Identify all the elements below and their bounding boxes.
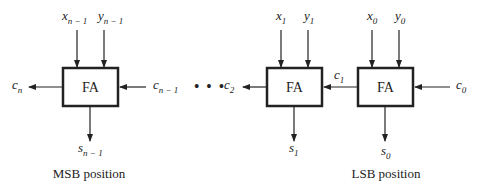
label-x-msb: xn − 1: [61, 8, 87, 26]
fa-label-0: FA: [377, 80, 395, 95]
label-sum-msb: sn − 1: [78, 140, 103, 158]
label-cout-0: c1: [334, 67, 344, 85]
label-sum-0: s0: [381, 143, 391, 161]
fa-label-msb: FA: [82, 80, 100, 95]
fa-block-0: FA x0 y0 c1 c0 s0 LSB position: [324, 8, 467, 181]
label-y-0: y0: [393, 8, 406, 26]
label-cin-0: c0: [456, 77, 467, 95]
fa-label-1: FA: [286, 80, 304, 95]
label-y-msb: yn − 1: [96, 8, 123, 26]
caption-msb: MSB position: [53, 166, 126, 181]
label-sum-1: s1: [289, 140, 299, 158]
label-x-0: x0: [366, 8, 378, 26]
label-x-1: x1: [275, 8, 286, 26]
fa-block-1: FA x1 y1 c2 s1: [224, 8, 322, 158]
ripple-carry-adder-diagram: FA xn − 1 yn − 1 cn cn − 1 sn − 1 MSB po…: [0, 0, 479, 193]
caption-lsb: LSB position: [352, 166, 421, 181]
label-cout-msb: cn: [12, 77, 23, 95]
label-cin-msb: cn − 1: [153, 77, 178, 95]
label-y-1: y1: [302, 8, 314, 26]
ellipsis-dots: • • •: [194, 79, 226, 94]
fa-block-msb: FA xn − 1 yn − 1 cn cn − 1 sn − 1 MSB po…: [12, 8, 178, 181]
